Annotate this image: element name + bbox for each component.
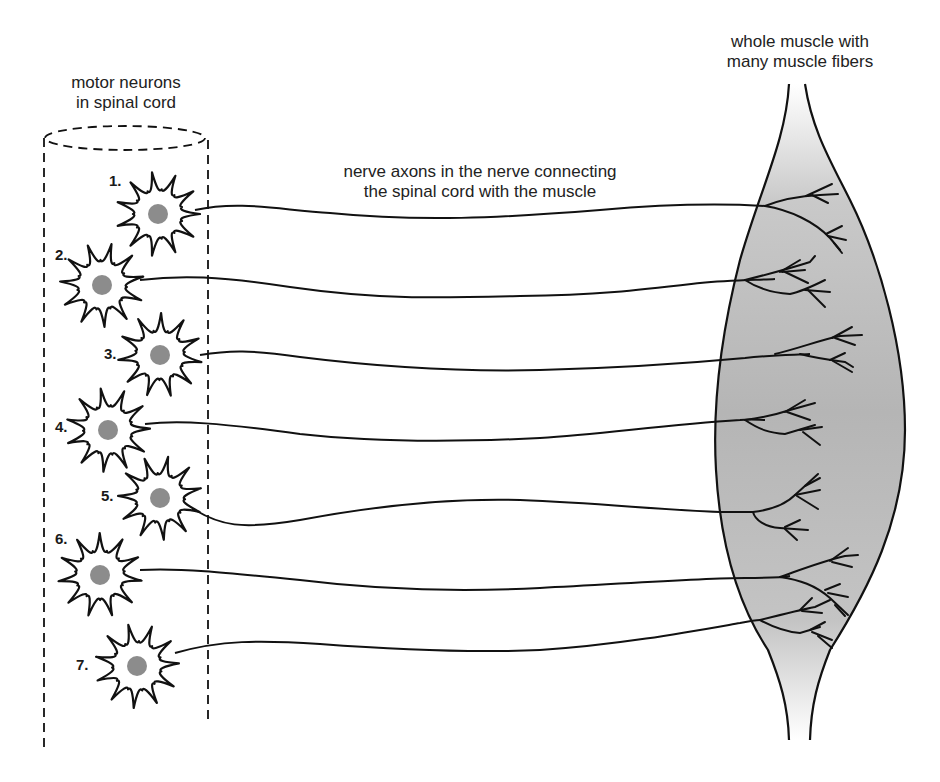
axons-label: nerve axons in the nerve connecting the … — [300, 162, 660, 202]
axons-label-line-2: the spinal cord with the muscle — [300, 182, 660, 202]
neuron-number-1: 1. — [109, 172, 122, 189]
neuron-nucleus — [150, 345, 170, 365]
muscle-label: whole muscle with many muscle fibers — [700, 32, 900, 72]
neuron-number-7: 7. — [76, 656, 89, 673]
spinal-cord-label: motor neurons in spinal cord — [56, 73, 196, 113]
neuron-number-4: 4. — [55, 418, 68, 435]
axons-label-line-1: nerve axons in the nerve connecting — [300, 162, 660, 182]
motor-neurons — [59, 172, 202, 708]
axon-7 — [175, 620, 760, 653]
motor-unit-diagram — [0, 0, 940, 782]
neuron-number-3: 3. — [104, 345, 117, 362]
neuron-nucleus — [150, 488, 170, 508]
axon-1 — [195, 205, 765, 219]
neuron-7 — [96, 625, 179, 708]
axon-4 — [145, 420, 765, 441]
axon-5 — [195, 500, 753, 526]
neuron-nucleus — [127, 656, 147, 676]
neuron-6 — [59, 533, 142, 615]
neuron-nucleus — [98, 420, 118, 440]
neuron-1 — [118, 172, 200, 255]
muscle-label-line-1: whole muscle with — [700, 32, 900, 52]
muscle-label-line-2: many muscle fibers — [700, 52, 900, 72]
neuron-nucleus — [90, 565, 110, 585]
spinal-cord-label-line-2: in spinal cord — [56, 93, 196, 113]
neuron-number-6: 6. — [55, 530, 68, 547]
neuron-nucleus — [148, 204, 168, 224]
nerve-axons — [140, 205, 810, 653]
axon-2 — [140, 277, 775, 297]
neuron-number-2: 2. — [55, 246, 68, 263]
spinal-cord-top-ellipse — [45, 126, 205, 150]
neuron-2 — [60, 244, 143, 327]
neuron-4 — [67, 389, 150, 472]
neuron-nucleus — [92, 275, 112, 295]
axon-6 — [140, 569, 790, 589]
spinal-cord-label-line-1: motor neurons — [56, 73, 196, 93]
neuron-3 — [118, 313, 201, 396]
muscle-body — [715, 84, 905, 740]
neuron-5 — [118, 457, 201, 540]
neuron-number-5: 5. — [101, 487, 114, 504]
